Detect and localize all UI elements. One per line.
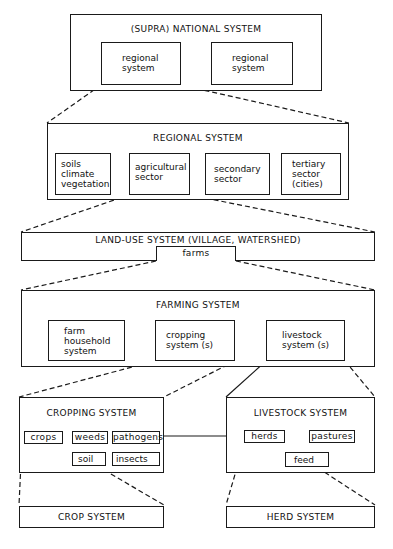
label-line: soils [61, 159, 109, 169]
label-line: system [122, 63, 158, 73]
label-line: sector [214, 174, 261, 184]
label-line: farm [64, 326, 111, 336]
crop-system-title: CROP SYSTEM [20, 512, 163, 522]
crop-system-box: CROP SYSTEM [19, 506, 164, 528]
herds-box: herds [244, 430, 285, 443]
herd-system-box: HERD SYSTEM [226, 506, 375, 528]
land-use-system-title: LAND-USE SYSTEM (VILLAGE, WATERSHED) [22, 235, 374, 245]
label-line: secondary [214, 164, 261, 174]
insects-box: insects [112, 452, 160, 466]
tertiary-sector-box: tertiary sector (cities) [281, 153, 341, 195]
weeds-box: weeds [72, 431, 108, 444]
soil-box: soil [72, 452, 106, 466]
label-line: vegetation [61, 179, 109, 189]
insects-label: insects [116, 454, 148, 464]
weeds-label: weeds [73, 432, 107, 442]
farms-box: farms [156, 246, 236, 261]
pastures-box: pastures [309, 430, 355, 443]
label-line: cropping [166, 330, 213, 340]
agricultural-sector-box: agricultural sector [129, 153, 190, 195]
label-line: sector [292, 169, 325, 179]
cropping-systems-box: cropping system (s) [155, 320, 235, 361]
label-line: system (s) [282, 340, 329, 350]
herd-system-title: HERD SYSTEM [227, 512, 374, 522]
regional-system-box-left: regional system [101, 42, 181, 85]
soil-label: soil [78, 454, 93, 464]
label-line: system [232, 63, 268, 73]
label-line: agricultural [135, 162, 187, 172]
crops-box: crops [24, 431, 63, 444]
regional-system-title: REGIONAL SYSTEM [48, 133, 348, 143]
label-line: climate [61, 169, 109, 179]
livestock-systems-box: livestock system (s) [266, 320, 345, 361]
regional-system-box-right: regional system [211, 42, 293, 85]
pathogens-label: pathogens [113, 432, 159, 442]
soils-climate-vegetation-box: soils climate vegetation [55, 153, 111, 195]
feed-box: feed [285, 452, 329, 467]
national-system-title: (SUPRA) NATIONAL SYSTEM [71, 24, 321, 34]
livestock-system-title: LIVESTOCK SYSTEM [227, 408, 374, 418]
label-line: household [64, 336, 111, 346]
farms-label: farms [157, 248, 235, 258]
label-line: livestock [282, 330, 329, 340]
crops-label: crops [25, 432, 62, 442]
cropping-system-title: CROPPING SYSTEM [20, 408, 163, 418]
label-line: system [64, 346, 111, 356]
pastures-label: pastures [310, 431, 354, 441]
pathogens-box: pathogens [112, 431, 160, 444]
label-line: regional [122, 53, 158, 63]
label-line: tertiary [292, 159, 325, 169]
label-line: (cities) [292, 179, 325, 189]
label-line: sector [135, 172, 187, 182]
farming-system-title: FARMING SYSTEM [22, 300, 374, 310]
secondary-sector-box: secondary sector [205, 153, 270, 195]
herds-label: herds [245, 431, 284, 441]
farm-household-system-box: farm household system [48, 320, 125, 361]
label-line: system (s) [166, 340, 213, 350]
label-line: regional [232, 53, 268, 63]
feed-label: feed [294, 455, 314, 465]
